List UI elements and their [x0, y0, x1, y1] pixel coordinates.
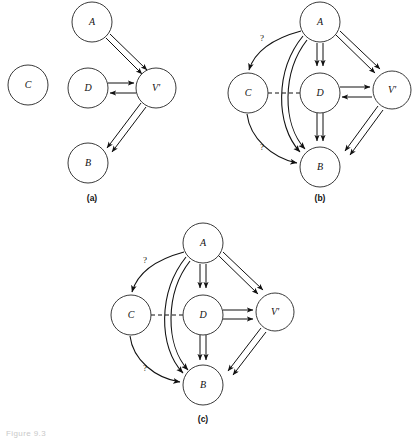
panel-label-c: (c) [198, 414, 209, 424]
node-label: B [85, 157, 91, 168]
node-c-C[interactable]: C [111, 295, 151, 335]
node-b-B[interactable]: B [300, 147, 340, 187]
panel-a: C A D V' B (a) [8, 2, 176, 203]
edge-c-C-to-B [130, 336, 180, 382]
node-a-Vprime[interactable]: V' [136, 68, 176, 108]
edge-b-C-to-B [247, 114, 297, 163]
node-label: D [83, 82, 92, 93]
node-c-D[interactable]: D [183, 295, 223, 335]
edge-c-A-to-Vprime [219, 252, 263, 294]
edge-b-Vprime-to-B [345, 106, 383, 155]
figure-caption: Figure 9.3 [6, 429, 46, 438]
node-b-D[interactable]: D [300, 73, 340, 113]
node-label: A [316, 16, 324, 27]
edge-a-Vprime-to-B [107, 103, 146, 152]
node-c-A[interactable]: A [183, 223, 223, 263]
node-label: C [128, 309, 135, 320]
panel-c: ? ? [111, 223, 294, 424]
edge-b-A-to-D [317, 43, 323, 66]
node-label: A [88, 16, 96, 27]
edge-b-D-to-B [317, 113, 323, 141]
node-label: V' [271, 306, 280, 317]
node-label: D [315, 87, 324, 98]
node-label: D [198, 309, 207, 320]
node-label: V' [152, 82, 161, 93]
node-b-C[interactable]: C [228, 73, 268, 113]
node-label: C [245, 87, 252, 98]
edge-c-Vprime-to-B [228, 328, 266, 375]
edge-label-question-c-bottom: ? [143, 363, 147, 373]
edge-c-D-to-B [200, 335, 206, 360]
edge-c-A-to-D [200, 264, 206, 288]
node-c-Vprime[interactable]: V' [256, 293, 294, 331]
node-label: V' [388, 84, 397, 95]
panel-b: ? ? [228, 2, 411, 203]
node-a-C[interactable]: C [8, 65, 48, 105]
node-label: B [317, 161, 323, 172]
node-b-Vprime[interactable]: V' [373, 71, 411, 109]
edge-c-D-to-Vprime [223, 310, 253, 319]
node-c-B[interactable]: B [183, 365, 223, 405]
node-label: B [200, 379, 206, 390]
node-a-B[interactable]: B [68, 143, 108, 183]
edge-b-A-to-Vprime [336, 31, 380, 73]
node-b-A[interactable]: A [300, 2, 340, 42]
edge-label-question-b-top: ? [260, 33, 264, 43]
node-a-A[interactable]: A [72, 2, 112, 42]
node-label: C [25, 79, 32, 90]
node-a-D[interactable]: D [68, 68, 108, 108]
edge-label-question-c-top: ? [143, 255, 147, 265]
panel-label-a: (a) [87, 193, 98, 203]
node-label: A [199, 237, 207, 248]
panel-label-b: (b) [315, 193, 326, 203]
edge-label-question-b-bottom: ? [260, 142, 264, 152]
edge-a-A-to-Vprime [106, 34, 147, 74]
